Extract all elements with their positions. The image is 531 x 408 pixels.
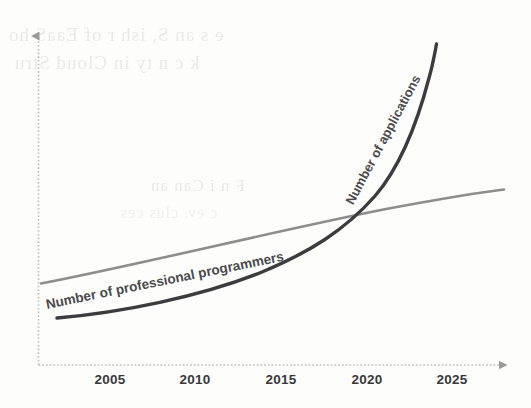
chart-page: e s an S, ish r of EaaS ho k c n ty in C… bbox=[0, 0, 531, 408]
x-tick-label-2020: 2020 bbox=[352, 372, 383, 387]
series-programmers-group bbox=[41, 190, 504, 284]
x-tick-label-2025: 2025 bbox=[437, 372, 468, 387]
x-tick-label-2005: 2005 bbox=[95, 372, 126, 387]
x-tick-label-2015: 2015 bbox=[266, 372, 297, 387]
series-line-programmers bbox=[41, 190, 504, 284]
x-tick-label-2010: 2010 bbox=[180, 372, 211, 387]
chart-plot bbox=[0, 0, 531, 408]
series-applications-group bbox=[57, 44, 437, 318]
series-line-applications bbox=[57, 44, 437, 318]
